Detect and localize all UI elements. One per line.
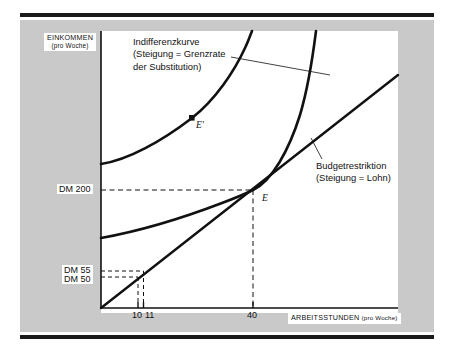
x-tick-label-40: 40 (247, 310, 257, 320)
budget-leader-line (311, 138, 322, 159)
indifference-annotation-line1: Indifferenzkurve (133, 36, 226, 48)
point-marker-e-prime (189, 115, 195, 121)
budget-annotation-line2: (Steigung = Lohn) (316, 172, 391, 184)
indifference-annotation-line3: der Substitution) (133, 61, 226, 73)
y-axis-title: EINKOMMEN (pro Woche) (44, 33, 96, 51)
x-tick-label-10: 10 (132, 310, 142, 320)
y-axis-title-main: EINKOMMEN (47, 33, 93, 42)
x-tick-label-11: 11 (145, 310, 154, 320)
x-axis-title-sub: (pro Woche) (362, 314, 398, 321)
figure-page: EINKOMMEN (pro Woche) ARBEITSSTUNDEN (pr… (0, 0, 451, 350)
indifference-curve-annotation: Indifferenzkurve (Steigung = Grenzrate d… (133, 36, 226, 73)
y-tick-label-dm50: DM 50 (62, 274, 93, 284)
x-axis-title-main: ARBEITSSTUNDEN (291, 313, 359, 322)
indifference-leader-line (231, 57, 330, 75)
y-tick-label-dm200: DM 200 (57, 184, 93, 194)
indifference-annotation-line2: (Steigung = Grenzrate (133, 48, 226, 60)
budget-annotation-line1: Budgetrestriktion (316, 160, 391, 172)
point-label-e-prime: E' (196, 120, 204, 130)
point-label-e: E (262, 193, 268, 203)
budget-line-annotation: Budgetrestriktion (Steigung = Lohn) (316, 160, 391, 185)
y-axis-title-sub: (pro Woche) (47, 42, 93, 49)
x-axis-title: ARBEITSSTUNDEN (pro Woche) (288, 313, 401, 324)
